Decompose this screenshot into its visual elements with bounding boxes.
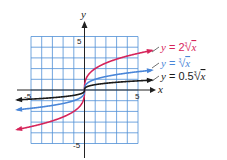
series-label-2: y = 0.53√x [160, 70, 206, 82]
leader-line [152, 76, 159, 81]
x-tick-5: 5 [135, 92, 140, 101]
series-label-1: y = 3√x [160, 57, 190, 69]
arrow-head-icon [147, 68, 154, 73]
y-axis-label: y [80, 8, 86, 20]
y-tick-5: 5 [77, 37, 82, 46]
x-axis-arrow-icon [150, 87, 156, 93]
axes: x y 5 -5 5 -5 [17, 8, 163, 158]
y-tick-neg5: -5 [73, 141, 81, 150]
series-label-0: y = 23√x [160, 41, 196, 53]
arrow-head-icon [15, 107, 22, 112]
leader-line [152, 63, 159, 68]
legend-labels: y = 23√xy = 3√xy = 0.53√x [152, 41, 206, 82]
y-axis-arrow-icon [82, 21, 88, 28]
arrow-head-icon [15, 126, 22, 131]
arrow-head-icon [15, 97, 22, 102]
x-axis-label: x [157, 83, 163, 95]
leader-line [152, 47, 159, 52]
cube-root-graph: x y 5 -5 5 -5 y = 23√xy = 3√xy = 0.53√x [0, 0, 227, 160]
